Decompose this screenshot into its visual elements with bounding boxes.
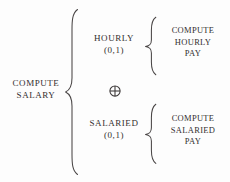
condition-node-hourly: HOURLY (0,1) — [76, 33, 152, 56]
action-hourly-line-2: HOURLY — [158, 37, 228, 49]
root-label-line-2: SALARY — [0, 90, 72, 102]
occurrence-salaried: (0,1) — [76, 130, 152, 142]
action-node-compute-hourly-pay: COMPUTE HOURLY PAY — [158, 25, 228, 60]
action-node-compute-salaried-pay: COMPUTE SALARIED PAY — [158, 113, 228, 148]
action-salaried-line-1: COMPUTE — [158, 113, 228, 125]
root-node-compute-salary: COMPUTE SALARY — [0, 78, 72, 101]
condition-label-salaried: SALARIED — [76, 118, 152, 130]
action-salaried-line-2: SALARIED — [158, 125, 228, 137]
occurrence-hourly: (0,1) — [76, 45, 152, 57]
condition-node-salaried: SALARIED (0,1) — [76, 118, 152, 141]
condition-label-hourly: HOURLY — [76, 33, 152, 45]
action-hourly-line-1: COMPUTE — [158, 25, 228, 37]
action-hourly-line-3: PAY — [158, 48, 228, 60]
action-salaried-line-3: PAY — [158, 136, 228, 148]
exclusive-or-icon — [108, 84, 122, 98]
structure-diagram: COMPUTE SALARY HOURLY (0,1) SALARIED (0,… — [0, 0, 230, 182]
root-label-line-1: COMPUTE — [0, 78, 72, 90]
